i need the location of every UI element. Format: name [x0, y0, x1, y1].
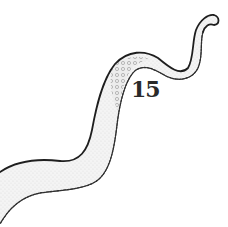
- figure-number: 15: [131, 78, 160, 100]
- tentacle-body: [0, 15, 219, 224]
- tentacle-illustration: [0, 0, 228, 227]
